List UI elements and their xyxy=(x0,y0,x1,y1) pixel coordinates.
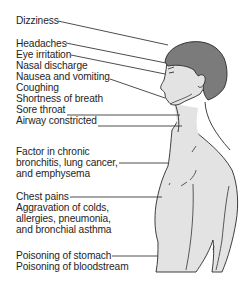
label-airway: Airway constricted xyxy=(16,115,97,126)
label-chronic-line-2: bronchitis, lung cancer, xyxy=(16,157,118,168)
label-nausea: Nausea and vomiting xyxy=(16,71,110,82)
label-shortness-of-breath: Shortness of breath xyxy=(16,93,103,104)
label-chronic-line-3: and emphysema xyxy=(16,168,118,179)
label-poisoning-line-1: Poisoning of stomach xyxy=(16,250,129,261)
label-sore-throat: Sore throat xyxy=(16,104,65,115)
label-headaches: Headaches xyxy=(16,38,67,49)
label-poisoning: Poisoning of stomach Poisoning of bloods… xyxy=(16,250,129,272)
label-chest-line-3: allergies, pneumonia, xyxy=(16,213,111,224)
leader-nausea xyxy=(110,79,165,98)
label-poisoning-line-2: Poisoning of bloodstream xyxy=(16,261,129,272)
label-dizziness: Dizziness xyxy=(16,15,59,26)
label-chest-line-1: Chest pains xyxy=(16,191,111,202)
label-coughing: Coughing xyxy=(16,82,59,93)
label-chest-line-2: Aggravation of colds, xyxy=(16,202,111,213)
leader-dizziness xyxy=(58,21,168,45)
label-chronic-line-1: Factor in chronic xyxy=(16,146,118,157)
label-chest-line-4: and bronchial asthma xyxy=(16,224,111,235)
label-eye-irritation: Eye irritation xyxy=(16,49,71,60)
label-chest: Chest pains Aggravation of colds, allerg… xyxy=(16,191,111,235)
label-chronic: Factor in chronic bronchitis, lung cance… xyxy=(16,146,118,179)
label-nasal-discharge: Nasal discharge xyxy=(16,60,88,71)
